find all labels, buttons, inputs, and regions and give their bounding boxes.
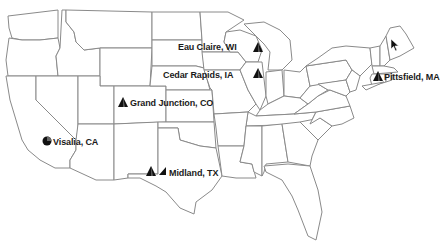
location-label-pittsfield: Pittsfield, MA — [384, 72, 440, 82]
state-washington — [8, 10, 58, 40]
state-montana — [66, 10, 152, 50]
mouse-pointer-icon — [390, 38, 400, 52]
triangle-marker-icon[interactable] — [252, 41, 264, 53]
bar-marker-icon[interactable] — [158, 166, 167, 176]
triangle-marker-icon[interactable] — [145, 165, 157, 177]
state-oregon — [6, 38, 60, 76]
state-wyoming — [100, 48, 152, 86]
location-label-eau-claire: Eau Claire, WI — [178, 42, 237, 52]
triangle-marker-icon[interactable] — [252, 67, 264, 79]
state-north-dakota — [152, 12, 202, 40]
triangle-marker-icon[interactable] — [372, 70, 384, 82]
location-label-cedar-rapids: Cedar Rapids, IA — [163, 70, 233, 80]
state-vermont — [370, 46, 380, 66]
circle-marker-icon[interactable] — [42, 136, 52, 146]
state-iowa — [202, 52, 246, 70]
location-label-grand-junction: Grand Junction, CO — [130, 98, 213, 108]
state-arkansas — [214, 112, 248, 146]
location-label-midland: Midland, TX — [169, 168, 218, 178]
triangle-marker-icon[interactable] — [117, 96, 129, 108]
state-florida — [264, 164, 322, 240]
state-arizona — [70, 124, 114, 180]
location-label-visalia: Visalia, CA — [53, 137, 98, 147]
us-map — [0, 0, 446, 244]
